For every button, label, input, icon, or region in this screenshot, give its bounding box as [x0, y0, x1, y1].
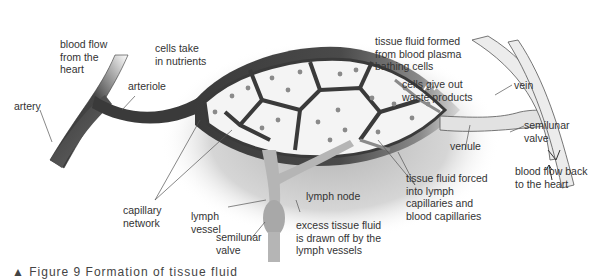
- label-arteriole: arteriole: [128, 80, 166, 93]
- label-tissue-fluid-formed: tissue fluid formed from blood plasma ba…: [375, 35, 461, 73]
- figure-caption: ▲ Figure 9 Formation of tissue fluid: [12, 265, 238, 279]
- label-excess-tissue-fluid: excess tissue fluid is drawn off by the …: [296, 219, 381, 257]
- lymph-node: [263, 200, 285, 236]
- label-blood-flow-from-heart: blood flow from the heart: [60, 38, 107, 76]
- label-cells-take-nutrients: cells take in nutrients: [155, 42, 206, 67]
- label-tissue-fluid-forced: tissue fluid forced into lymph capillari…: [406, 172, 488, 222]
- label-venule: venule: [450, 140, 481, 153]
- label-blood-flow-back: blood flow back to the heart: [515, 165, 587, 190]
- label-capillary-network: capillary network: [123, 204, 162, 229]
- label-cells-give-out-waste: cells give out waste products: [402, 78, 473, 103]
- label-artery: artery: [14, 100, 41, 113]
- label-lymph-node: lymph node: [306, 190, 360, 203]
- label-vein: vein: [514, 79, 533, 92]
- label-semilunar-valve-right: semilunar valve: [524, 119, 570, 144]
- label-semilunar-valve-bottom: semilunar valve: [216, 231, 262, 256]
